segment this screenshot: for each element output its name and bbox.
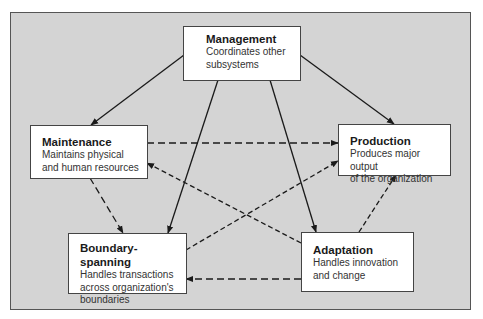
node-description: Coordinates other [206, 46, 300, 59]
node-description: Produces major output [350, 148, 450, 173]
node-title: Adaptation [313, 243, 413, 257]
node-boundary-spanning: Boundary-spanning Handles transactions a… [68, 233, 187, 294]
node-management: Management Coordinates other subsystems [183, 26, 301, 81]
node-description: Handles transactions [80, 269, 186, 282]
node-description: Maintains physical [42, 149, 147, 162]
arrow-management-to-maintenance [91, 55, 184, 125]
node-description: of the organization [350, 173, 450, 186]
node-description: and change [313, 270, 413, 283]
arrow-management-to-production [300, 55, 394, 124]
arrow-management-to-boundary-spanning [168, 80, 218, 233]
node-production: Production Produces major output of the … [338, 124, 451, 176]
node-maintenance: Maintenance Maintains physical and human… [30, 125, 148, 179]
node-title: Production [350, 134, 450, 148]
node-description: subsystems [206, 59, 300, 72]
node-description: and human resources [42, 162, 147, 175]
node-description: Handles innovation [313, 257, 413, 270]
node-description: across organization's [80, 282, 186, 295]
node-title: Management [206, 32, 300, 46]
node-title: Maintenance [42, 135, 147, 149]
node-title: Boundary-spanning [80, 241, 186, 269]
arrow-adaptation-to-maintenance [147, 163, 301, 243]
node-adaptation: Adaptation Handles innovation and change [301, 232, 414, 292]
node-description: boundaries [80, 294, 186, 307]
arrow-maintenance-to-boundary-spanning [90, 178, 123, 233]
arrow-management-to-adaptation [270, 80, 316, 232]
